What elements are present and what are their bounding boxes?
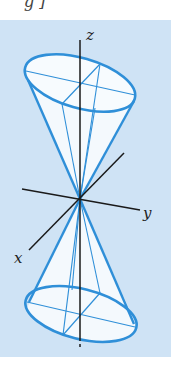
- lower-cone-surface: [27, 199, 135, 342]
- y-axis-label: y: [142, 204, 152, 222]
- double-cone-figure: z y x: [0, 0, 174, 365]
- x-axis-label: x: [14, 249, 23, 267]
- z-axis-label: z: [85, 26, 94, 44]
